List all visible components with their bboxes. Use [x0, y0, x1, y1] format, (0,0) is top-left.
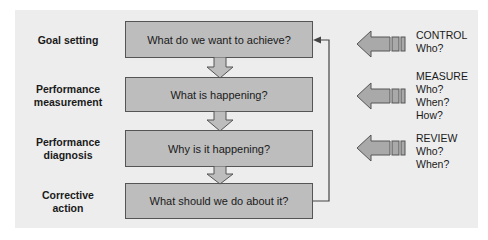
down-arrow-icon: [205, 111, 235, 132]
review-question: When?: [416, 158, 457, 171]
question-box-corrective: What should we do about it?: [125, 183, 313, 219]
question-box-goal: What do we want to achieve?: [125, 21, 313, 58]
stage-label-performance-measurement: Performance measurement: [18, 83, 118, 109]
down-arrow-icon: [205, 57, 235, 79]
stage-label-performance-diagnosis: Performance diagnosis: [18, 136, 118, 162]
control-title: CONTROL: [416, 29, 467, 42]
measure-title: MEASURE: [416, 70, 468, 83]
review-text-block: REVIEW Who? When?: [416, 132, 457, 171]
question-box-diagnosis: Why is it happening?: [125, 130, 313, 167]
down-arrow-icon: [205, 166, 235, 185]
left-block-arrow-icon: [356, 134, 414, 162]
question-text: What is happening?: [170, 89, 267, 101]
stage-label-line: diagnosis: [18, 149, 118, 162]
measure-question: How?: [416, 109, 468, 122]
stage-label-line: Corrective: [18, 189, 118, 202]
stage-label-goal-setting: Goal setting: [18, 34, 118, 47]
stage-label-line: action: [18, 202, 118, 215]
left-block-arrow-icon: [356, 30, 414, 58]
left-block-arrow-icon: [356, 82, 414, 110]
question-text: What do we want to achieve?: [147, 34, 291, 46]
stage-label-line: Performance: [18, 83, 118, 96]
measure-question: Who?: [416, 83, 468, 96]
review-title: REVIEW: [416, 132, 457, 145]
control-text-block: CONTROL Who?: [416, 29, 467, 55]
measure-text-block: MEASURE Who? When? How?: [416, 70, 468, 122]
control-question: Who?: [416, 42, 467, 55]
stage-label-corrective-action: Corrective action: [18, 189, 118, 215]
stage-label-line: Goal setting: [18, 34, 118, 47]
measure-question: When?: [416, 96, 468, 109]
review-question: Who?: [416, 145, 457, 158]
question-text: What should we do about it?: [150, 195, 289, 207]
stage-label-line: Performance: [18, 136, 118, 149]
stage-label-line: measurement: [18, 96, 118, 109]
question-text: Why is it happening?: [168, 143, 270, 155]
question-box-measurement: What is happening?: [125, 77, 313, 112]
